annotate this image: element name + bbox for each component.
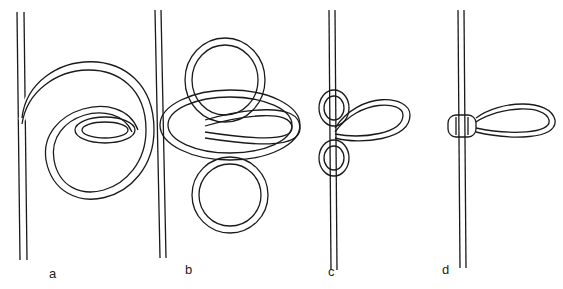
panel-label-b: b: [185, 262, 192, 277]
knot-diagram: [0, 0, 563, 289]
panel-label-d: d: [442, 262, 449, 277]
panel-c-drawing: [319, 10, 410, 270]
panel-label-a: a: [49, 266, 56, 281]
panel-d-drawing: [448, 10, 555, 268]
panel-a-drawing: [17, 12, 154, 260]
panel-b-drawing: [155, 10, 300, 258]
panel-label-c: c: [328, 264, 335, 279]
